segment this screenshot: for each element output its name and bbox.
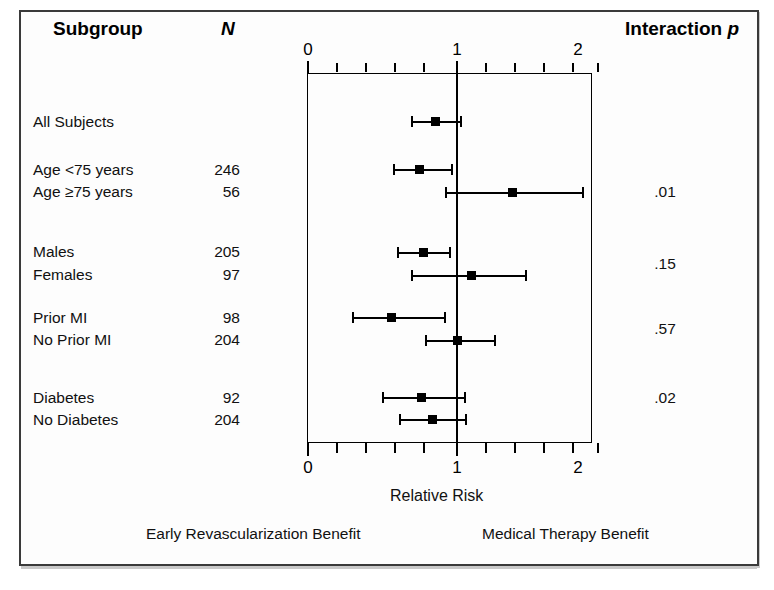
- row-label-prior-mi: Prior MI: [33, 309, 87, 327]
- row-label-no-prior-mi: No Prior MI: [33, 331, 111, 349]
- interaction-p-sex: .15: [640, 255, 690, 273]
- bottom-tick-1.6: [543, 443, 545, 453]
- top-tick-0.2: [336, 63, 338, 72]
- row-n-age-lt-75: 246: [190, 161, 240, 179]
- row-n-diabetes: 92: [190, 389, 240, 407]
- ci-cap-low-age-lt-75: [393, 164, 395, 175]
- bottom-tick-label-1: 1: [442, 458, 472, 478]
- row-label-age-lt-75: Age <75 years: [33, 161, 133, 179]
- interaction-p-diabetes: .02: [640, 389, 690, 407]
- forest-plot-figure: Subgroup N Interaction p 0 1 2 0 1 2 Rel…: [0, 0, 774, 590]
- point-estimate-age-lt-75: [415, 165, 424, 174]
- top-tick-1.0: [456, 61, 458, 73]
- ci-cap-high-prior-mi: [444, 312, 446, 323]
- row-n-no-prior-mi: 204: [190, 331, 240, 349]
- bottom-tick-1.8: [572, 443, 574, 453]
- column-header-subgroup: Subgroup: [53, 18, 143, 40]
- point-estimate-age-ge-75: [508, 188, 517, 197]
- top-tick-label-1: 1: [442, 40, 472, 60]
- top-tick-0.8: [423, 63, 425, 72]
- bottom-tick-0.2: [336, 443, 338, 453]
- point-estimate-diabetes: [417, 393, 426, 402]
- ci-cap-high-all-subjects: [460, 116, 462, 127]
- row-label-diabetes: Diabetes: [33, 389, 94, 407]
- ci-cap-high-age-ge-75: [582, 187, 584, 198]
- bottom-tick-1.0: [456, 443, 458, 456]
- ci-cap-high-females: [525, 270, 527, 281]
- top-tick-1.2: [485, 63, 487, 72]
- frame-shadow: [21, 566, 757, 569]
- row-label-all-subjects: All Subjects: [33, 113, 114, 131]
- top-tick-label-0: 0: [293, 40, 323, 60]
- point-estimate-females: [467, 271, 476, 280]
- bottom-tick-0.0: [307, 443, 309, 456]
- ci-cap-high-age-lt-75: [451, 164, 453, 175]
- top-tick-0.0: [307, 61, 309, 73]
- top-tick-0.6: [394, 63, 396, 72]
- column-header-interaction-p: Interaction p: [625, 18, 739, 40]
- row-label-females: Females: [33, 266, 92, 284]
- point-estimate-no-prior-mi: [453, 336, 462, 345]
- bottom-tick-2.0: [597, 443, 599, 453]
- ci-cap-low-males: [397, 247, 399, 258]
- top-tick-0.4: [365, 63, 367, 72]
- ci-cap-low-prior-mi: [352, 312, 354, 323]
- ci-cap-low-diabetes: [382, 392, 384, 403]
- row-n-females: 97: [190, 266, 240, 284]
- benefit-label-right: Medical Therapy Benefit: [482, 525, 649, 543]
- row-n-prior-mi: 98: [190, 309, 240, 327]
- top-tick-1.4: [514, 63, 516, 72]
- benefit-label-left: Early Revascularization Benefit: [146, 525, 361, 543]
- bottom-tick-1.2: [485, 443, 487, 453]
- bottom-tick-0.4: [365, 443, 367, 453]
- ci-cap-high-no-diabetes: [465, 414, 467, 425]
- bottom-tick-0.8: [423, 443, 425, 453]
- interaction-p-age: .01: [640, 183, 690, 201]
- bottom-tick-1.4: [514, 443, 516, 453]
- point-estimate-males: [419, 248, 428, 257]
- ci-cap-low-no-diabetes: [399, 414, 401, 425]
- bottom-tick-label-0: 0: [293, 458, 323, 478]
- row-label-no-diabetes: No Diabetes: [33, 411, 118, 429]
- ci-line-prior-mi: [352, 317, 445, 319]
- row-label-males: Males: [33, 243, 74, 261]
- top-tick-1.6: [543, 63, 545, 72]
- ci-cap-high-diabetes: [464, 392, 466, 403]
- interaction-text: Interaction: [625, 18, 722, 39]
- interaction-p-italic: p: [727, 18, 739, 39]
- bottom-tick-label-2: 2: [563, 458, 593, 478]
- row-label-age-ge-75: Age ≥75 years: [33, 183, 133, 201]
- ci-cap-high-males: [449, 247, 451, 258]
- top-tick-1.8: [572, 63, 574, 72]
- reference-line-at-1: [456, 73, 458, 443]
- row-n-age-ge-75: 56: [190, 183, 240, 201]
- point-estimate-all-subjects: [431, 117, 440, 126]
- row-n-males: 205: [190, 243, 240, 261]
- interaction-p-prior-mi: .57: [640, 320, 690, 338]
- ci-cap-low-females: [411, 270, 413, 281]
- plot-box: [307, 73, 592, 443]
- top-tick-2.0: [597, 63, 599, 72]
- point-estimate-prior-mi: [387, 313, 396, 322]
- x-axis-label: Relative Risk: [390, 487, 483, 505]
- bottom-tick-0.6: [394, 443, 396, 453]
- top-tick-label-2: 2: [563, 40, 593, 60]
- ci-cap-low-no-prior-mi: [425, 335, 427, 346]
- row-n-no-diabetes: 204: [190, 411, 240, 429]
- point-estimate-no-diabetes: [428, 415, 437, 424]
- ci-cap-low-age-ge-75: [445, 187, 447, 198]
- ci-cap-high-no-prior-mi: [494, 335, 496, 346]
- column-header-n: N: [221, 18, 235, 40]
- ci-cap-low-all-subjects: [411, 116, 413, 127]
